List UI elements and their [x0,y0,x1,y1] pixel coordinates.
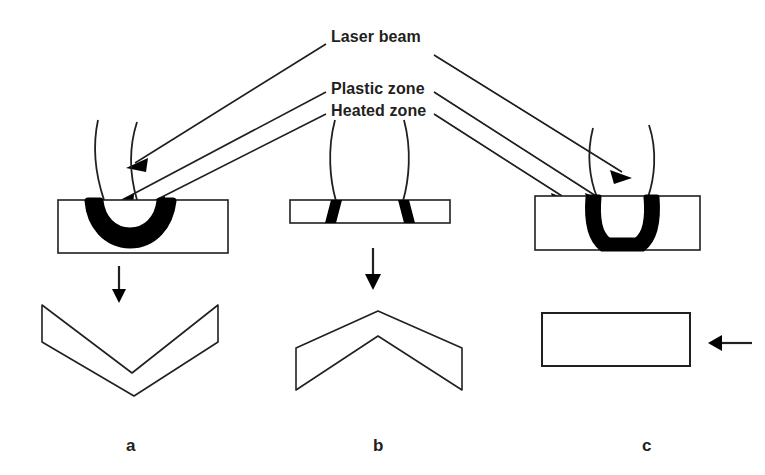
panel-a-plume-left [95,120,104,200]
leader-heated-zone-a [152,114,326,202]
panel-c-shortening-arrow [708,335,752,351]
panel-b-plume-right [403,120,409,201]
panel-letter-b: b [373,436,383,456]
panel-b-result-shape [296,311,462,390]
panel-letter-c: c [642,436,651,456]
panel-a-process-arrow [112,266,126,303]
panel-c-plume-right [648,125,654,197]
leader-lines-left [122,44,326,202]
panel-c-workpiece [535,125,700,250]
panel-a-plume-right [131,122,137,200]
label-plastic-zone: Plastic zone [331,80,425,98]
panel-letter-a: a [126,436,135,456]
panel-c-result-shape [542,313,690,366]
leader-lines-right-strokes [434,55,622,196]
panel-b-workpiece [290,120,450,223]
panel-a-result-shape [42,305,218,396]
panel-c-plume-left [589,128,597,197]
panel-b-process-arrow [365,248,381,290]
panel-a-workpiece [58,120,228,253]
label-laser-beam: Laser beam [331,28,421,46]
laser-bending-diagram [0,0,765,475]
leader-laser-beam-a [135,44,326,163]
panel-b-plate [290,200,450,223]
label-heated-zone: Heated zone [331,102,426,120]
panel-b-plume-left [330,120,336,201]
arrowhead-laser-beam-a [126,158,148,172]
